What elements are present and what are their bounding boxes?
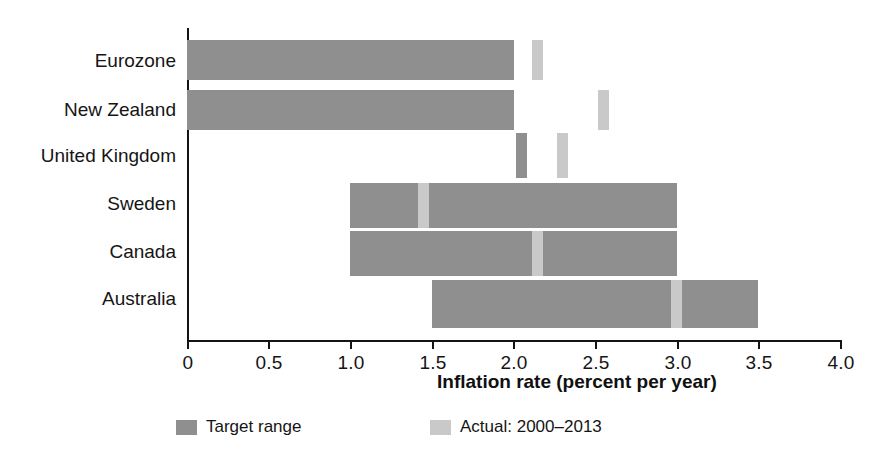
x-tick-2-5 bbox=[595, 340, 597, 349]
bar-row-eurozone bbox=[187, 40, 840, 80]
target-range-bar bbox=[516, 133, 527, 178]
x-tick-1-5 bbox=[432, 340, 434, 349]
legend-label-actual: Actual: 2000–2013 bbox=[460, 417, 602, 437]
actual-marker bbox=[598, 90, 609, 130]
actual-marker bbox=[418, 183, 429, 228]
target-range-bar bbox=[187, 40, 514, 80]
x-tick-3-5 bbox=[758, 340, 760, 349]
x-tick-label-0-5: 0.5 bbox=[255, 352, 282, 374]
legend-swatch-target-range bbox=[176, 420, 197, 435]
bar-row-canada bbox=[187, 231, 840, 276]
x-tick-label-3-5: 3.5 bbox=[745, 352, 772, 374]
x-axis-title: Inflation rate (percent per year) bbox=[437, 371, 717, 393]
category-label-canada: Canada bbox=[0, 241, 176, 263]
bar-row-australia bbox=[187, 280, 840, 328]
legend-swatch-actual bbox=[430, 420, 451, 435]
x-tick-3-0 bbox=[677, 340, 679, 349]
legend-item-actual: Actual: 2000–2013 bbox=[430, 417, 602, 437]
x-tick-2-0 bbox=[513, 340, 515, 349]
target-range-bar bbox=[432, 280, 759, 328]
x-tick-0-5 bbox=[268, 340, 270, 349]
x-tick-0 bbox=[187, 340, 189, 349]
x-tick-label-4-0: 4.0 bbox=[827, 352, 854, 374]
actual-marker bbox=[532, 231, 543, 276]
x-tick-4-0 bbox=[840, 340, 842, 349]
category-label-sweden: Sweden bbox=[0, 193, 176, 215]
x-tick-label-0: 0 bbox=[183, 352, 194, 374]
legend-label-target-range: Target range bbox=[206, 417, 301, 437]
bar-row-new-zealand bbox=[187, 90, 840, 130]
x-tick-1-0 bbox=[350, 340, 352, 349]
target-range-bar bbox=[350, 231, 677, 276]
x-tick-label-1-0: 1.0 bbox=[337, 352, 364, 374]
category-label-australia: Australia bbox=[0, 288, 176, 310]
actual-marker bbox=[532, 40, 543, 80]
bar-row-united-kingdom bbox=[187, 133, 840, 178]
inflation-target-chart: Eurozone New Zealand United Kingdom Swed… bbox=[0, 0, 873, 469]
plot-area: 0 0.5 1.0 1.5 2.0 2.5 3.0 3.5 4.0 bbox=[187, 28, 840, 340]
actual-marker bbox=[557, 133, 568, 178]
bar-row-sweden bbox=[187, 183, 840, 228]
legend-item-target-range: Target range bbox=[176, 417, 301, 437]
actual-marker bbox=[671, 280, 682, 328]
category-label-eurozone: Eurozone bbox=[0, 50, 176, 72]
category-label-new-zealand: New Zealand bbox=[0, 99, 176, 121]
target-range-bar bbox=[350, 183, 677, 228]
target-range-bar bbox=[187, 90, 514, 130]
category-label-united-kingdom: United Kingdom bbox=[0, 145, 176, 167]
